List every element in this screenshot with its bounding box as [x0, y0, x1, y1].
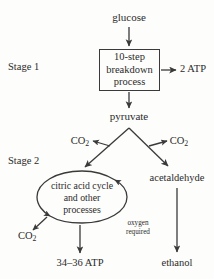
stage-1-label: Stage 1	[8, 61, 39, 72]
ethanol-label: ethanol	[162, 257, 193, 268]
arrow-pyruvate-to-acetaldehyde	[129, 128, 168, 166]
atp-34-36-label: 34–36 ATP	[57, 257, 104, 268]
pyruvate-label: pyruvate	[110, 111, 148, 123]
cycle-line-2: and other	[42, 192, 122, 204]
arrow-branch-to-co2-right	[149, 141, 167, 146]
cycle-line-1: citric acid cycle	[42, 180, 122, 192]
arrow-pyruvate-to-cycle	[85, 128, 129, 167]
diagram-canvas: Stage 1 Stage 2 glucose 10-step breakdow…	[0, 0, 214, 279]
arrow-branch-to-co2-left	[93, 141, 110, 146]
acetaldehyde-label: acetaldehyde	[150, 172, 205, 183]
oxygen-line-2: required	[126, 228, 150, 237]
co2-left-label: CO2	[71, 135, 89, 148]
co2-left-subscript: 2	[85, 139, 89, 148]
co2-left-text: CO	[71, 135, 86, 146]
arrow-cycle-to-co2-bottom	[33, 217, 47, 230]
citric-acid-cycle-text: citric acid cycle and other processes	[42, 180, 122, 217]
oxygen-required-label: oxygen required	[126, 219, 150, 236]
breakdown-box-line-3: process	[114, 76, 146, 88]
breakdown-box-line-1: 10-step	[114, 51, 145, 63]
breakdown-box-line-2: breakdown	[106, 64, 153, 76]
co2-bottom-label: CO2	[18, 230, 36, 243]
co2-bottom-text: CO	[18, 230, 33, 241]
glucose-label: glucose	[112, 12, 146, 24]
atp-2-label: 2 ATP	[180, 63, 206, 74]
co2-right-label: CO2	[170, 135, 188, 148]
cycle-line-3: processes	[42, 204, 122, 216]
cycle-arc-top	[82, 171, 115, 180]
stage-2-label: Stage 2	[8, 155, 39, 166]
co2-right-subscript: 2	[184, 139, 188, 148]
oxygen-line-1: oxygen	[126, 219, 150, 228]
co2-bottom-subscript: 2	[33, 234, 37, 243]
cycle-arc-bottom	[50, 216, 82, 223]
breakdown-process-box: 10-step breakdown process	[99, 49, 160, 91]
co2-right-text: CO	[170, 135, 185, 146]
